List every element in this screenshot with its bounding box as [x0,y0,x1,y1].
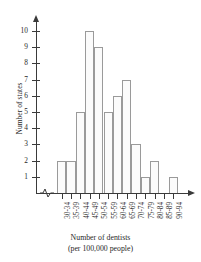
y-tick: 1 [32,177,40,178]
y-tick-label: 6 [24,92,28,99]
bar [141,177,150,193]
y-tick: 7 [32,80,40,81]
y-axis-title: Number of states [15,54,24,164]
y-tick: 2 [32,161,40,162]
x-axis-arrow-icon [188,190,195,196]
y-tick-label: 10 [21,27,28,34]
x-tick [136,193,137,199]
x-axis-title: Number of dentists (per 100,000 people) [0,233,201,254]
y-tick-label: 2 [24,157,28,164]
bar [85,31,94,193]
y-tick: 10 [32,31,40,32]
histogram-figure: Number of states 12345678910 30-3435-394… [0,0,201,262]
bar [113,96,122,193]
bar [150,161,159,193]
bar [76,112,85,193]
x-tick [117,193,118,199]
y-tick: 3 [32,144,40,145]
bar [94,47,103,193]
x-tick [99,193,100,199]
y-axis-arrow-icon [33,15,39,22]
x-tick [164,193,165,199]
y-tick: 9 [32,47,40,48]
bar [169,177,178,193]
x-tick [173,193,174,199]
y-tick: 8 [32,63,40,64]
x-axis-title-line1: Number of dentists [0,233,201,244]
x-tick [90,193,91,199]
y-tick-label: 1 [24,173,28,180]
y-tick: 6 [32,96,40,97]
y-tick-label: 5 [24,108,28,115]
x-axis-line [36,193,188,194]
bar [66,161,75,193]
y-tick-label: 8 [24,60,28,67]
y-tick: 4 [32,128,40,129]
bar [104,112,113,193]
bar [57,161,66,193]
y-tick-label: 3 [24,141,28,148]
x-tick [80,193,81,199]
y-tick-label: 4 [24,125,28,132]
bar [122,80,131,193]
x-tick [155,193,156,199]
bar [131,144,140,193]
x-tick [145,193,146,199]
x-tick [71,193,72,199]
x-tick [127,193,128,199]
y-tick-label: 7 [24,76,28,83]
plot-area: 12345678910 30-3435-3940-4445-4950-5455-… [36,22,156,194]
x-axis-title-line2: (per 100,000 people) [0,244,201,255]
y-tick: 5 [32,112,40,113]
axis-break-icon [40,187,54,199]
x-tick [108,193,109,199]
y-tick-label: 9 [24,44,28,51]
x-tick [62,193,63,199]
